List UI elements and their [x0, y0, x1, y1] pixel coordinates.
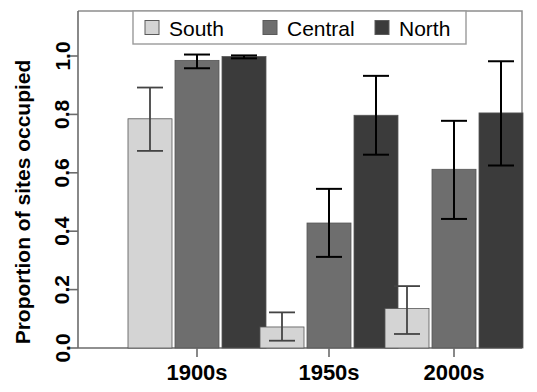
bar-south-1900s: [128, 119, 172, 348]
y-tick-label: 1.0: [51, 41, 74, 70]
legend-label-north: North: [399, 17, 450, 40]
x-tick-label: 1900s: [166, 360, 227, 385]
legend-swatch-north: [375, 21, 389, 35]
bar-north-1900s: [222, 57, 266, 348]
legend-swatch-south: [145, 21, 159, 35]
bar-chart: 0.00.20.40.60.81.0Proportion of sites oc…: [0, 0, 537, 392]
y-tick-label: 0.8: [51, 99, 74, 129]
legend-swatch-central: [263, 21, 277, 35]
y-tick-label: 0.2: [51, 275, 74, 304]
y-tick-label: 0.0: [51, 333, 74, 362]
bar-central-1900s: [175, 60, 219, 348]
y-axis-title: Proportion of sites occupied: [11, 60, 34, 345]
y-tick-label: 0.4: [51, 216, 74, 246]
y-tick-label: 0.6: [51, 158, 74, 187]
chart-canvas: 0.00.20.40.60.81.0Proportion of sites oc…: [0, 0, 537, 392]
legend-label-central: Central: [287, 17, 355, 40]
x-tick-label: 1950s: [298, 360, 359, 385]
legend-label-south: South: [169, 17, 224, 40]
x-tick-label: 2000s: [423, 360, 484, 385]
